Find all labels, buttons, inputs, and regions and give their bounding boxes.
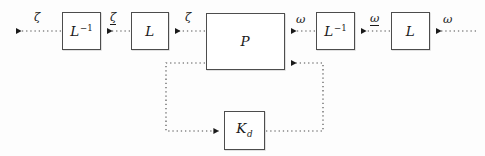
block-l-inverse-right[interactable]: L−1: [316, 12, 355, 50]
block-controller-kd[interactable]: Kd: [224, 111, 265, 150]
block-controller-kd-label: Kd: [236, 122, 252, 138]
block-l-left-label: L: [145, 23, 155, 38]
signal-label-omega-output: ω: [296, 14, 305, 26]
signal-label-zeta-output: ζ: [34, 12, 40, 24]
block-plant-p-label: P: [241, 34, 251, 49]
signal-label-omega-input: ω: [443, 14, 452, 26]
block-l-inverse-right-label: L−1: [324, 23, 346, 38]
block-l-left[interactable]: L: [131, 12, 169, 50]
signal-label-omega-underbar: ω: [370, 13, 379, 26]
signal-label-zeta-input: ζ: [185, 12, 191, 24]
block-l-right-label: L: [406, 23, 416, 38]
path-plant-to-controller: [166, 63, 219, 131]
block-diagram: L−1 L P L−1 L Kd ζ ζ ζ ω ω ω: [0, 0, 485, 156]
signal-label-zeta-underbar: ζ: [110, 12, 116, 25]
block-plant-p[interactable]: P: [206, 13, 285, 70]
block-l-inverse-left[interactable]: L−1: [62, 12, 101, 50]
block-l-inverse-left-label: L−1: [70, 23, 92, 38]
block-l-right[interactable]: L: [391, 12, 430, 50]
path-controller-to-plant: [266, 63, 323, 131]
